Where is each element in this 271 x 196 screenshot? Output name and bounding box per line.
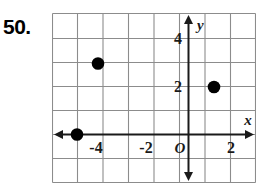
y-tick-label-2: 2 — [174, 78, 182, 95]
y-axis — [184, 15, 193, 181]
graph-figure: 50. — [0, 0, 271, 196]
coordinate-plane-svg: 4 2 -4 -2 O 2 y x — [52, 13, 256, 183]
grid-lines — [53, 14, 256, 183]
y-tick-label-4: 4 — [174, 30, 182, 47]
data-points — [71, 57, 221, 141]
data-point — [208, 81, 221, 94]
x-tick-label-2: 2 — [227, 139, 235, 156]
x-tick-label-neg2: -2 — [139, 139, 152, 156]
problem-number: 50. — [3, 16, 31, 37]
data-point — [92, 57, 105, 70]
coordinate-plane: 4 2 -4 -2 O 2 y x — [52, 13, 256, 183]
y-axis-label: y — [195, 17, 204, 33]
x-axis-label: x — [243, 112, 252, 128]
data-point — [71, 128, 84, 141]
origin-label: O — [175, 140, 186, 156]
x-tick-label-neg4: -4 — [89, 139, 102, 156]
